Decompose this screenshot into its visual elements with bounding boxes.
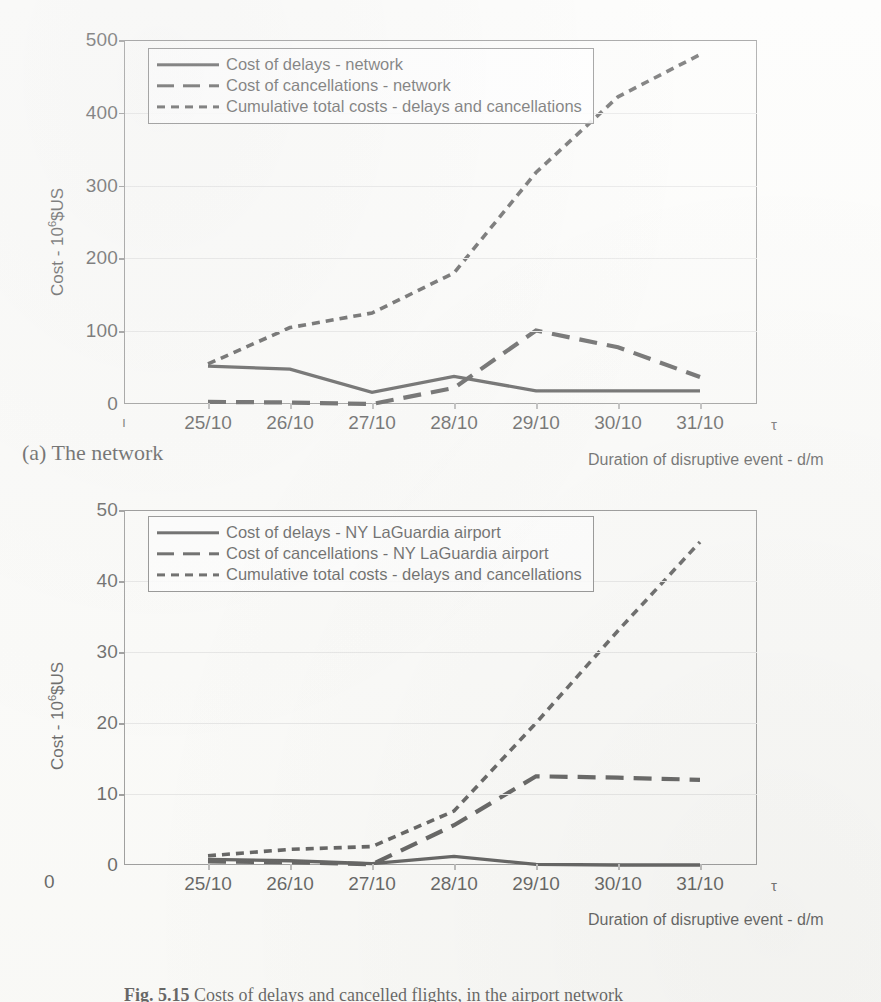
x-tick-mark [372,864,374,870]
y-tick-label: 500 [86,29,118,51]
x-tick-mark [618,403,620,409]
x-tick-mark [454,403,456,409]
y-tick-label: 100 [86,320,118,342]
x-tick-label: 30/10 [594,412,642,434]
x-tick-mark [536,403,538,409]
legend-label: Cumulative total costs - delays and canc… [226,98,582,115]
y-tick-label: 30 [96,641,118,663]
x-tick-label: 26/10 [266,873,314,895]
y-tick-mark [119,258,125,260]
y-tick-label: 20 [96,712,118,734]
y-tick-mark [119,723,125,725]
legend-line-swatch-icon [157,569,219,580]
gridline [124,331,757,332]
y-tick-label: 0 [107,393,118,415]
y-tick-mark [119,331,125,333]
y-axis-title-b: Cost - 106$US [46,662,68,770]
y-tick-mark [119,113,125,115]
legend-label: Cost of cancellations - NY LaGuardia air… [226,545,549,562]
x-tick-label: 31/10 [676,873,724,895]
tau-symbol: τ [771,877,777,894]
subcaption-a: (a) The network [22,440,163,466]
x-axis-caption-a: Duration of disruptive event - d/m [588,451,824,469]
legend-a: Cost of delays - networkCost of cancella… [148,48,594,124]
y-tick-label: 200 [86,247,118,269]
gridline [124,186,757,187]
x-tick-mark [208,864,210,870]
chart-panel-network: Cost - 106$US 0100200300400500 Cost of d… [0,0,881,470]
legend-item: Cost of delays - NY LaGuardia airport [157,522,582,543]
x-tick-mark [372,403,374,409]
y-tick-mark [119,794,125,796]
gridline [124,723,757,724]
x-tick-mark [208,403,210,409]
x-tick-label: 28/10 [430,873,478,895]
x-tick-label: 29/10 [512,873,560,895]
legend-line-swatch-icon [157,548,219,559]
legend-line-swatch-icon [157,80,219,91]
x-tick-label: 27/10 [348,412,396,434]
chart-panel-laguardia: Cost - 106$US 01020304050 Cost of delays… [0,470,881,960]
x-tick-label: 30/10 [594,873,642,895]
legend-item: Cumulative total costs - delays and canc… [157,564,582,585]
legend-b: Cost of delays - NY LaGuardia airportCos… [148,516,594,592]
legend-label: Cost of delays - network [226,56,403,73]
figure-5-15: Cost - 106$US 0100200300400500 Cost of d… [0,0,881,1002]
y-tick-label: 300 [86,175,118,197]
y-tick-label: 400 [86,102,118,124]
legend-item: Cost of cancellations - network [157,75,582,96]
legend-line-swatch-icon [157,59,219,70]
x-tick-mark [536,864,538,870]
x-tick-label: 27/10 [348,873,396,895]
gridline [124,258,757,259]
x-tick-label: 25/10 [184,412,232,434]
x-tick-mark [290,403,292,409]
legend-label: Cumulative total costs - delays and canc… [226,566,582,583]
x-axis-caption-b: Duration of disruptive event - d/m [588,911,824,929]
x-axis-labels-a: 25/1026/1027/1028/1029/1030/1031/10τı [124,410,757,436]
x-tick-mark [454,864,456,870]
y-tick-label: 50 [96,499,118,521]
y-tick-label: 10 [96,783,118,805]
x-tick-label: 31/10 [676,412,724,434]
y-tick-mark [119,40,125,42]
x-tick-mark [618,864,620,870]
legend-line-swatch-icon [157,527,219,538]
origin-tick-mark: ı [122,414,126,430]
y-tick-mark [119,581,125,583]
y-tick-mark [119,186,125,188]
legend-label: Cost of cancellations - network [226,77,451,94]
x-tick-mark [700,864,702,870]
x-tick-mark [290,864,292,870]
x-tick-label: 28/10 [430,412,478,434]
x-tick-label: 26/10 [266,412,314,434]
figure-caption-text: Costs of delays and cancelled flights, i… [194,985,623,1002]
legend-item: Cumulative total costs - delays and canc… [157,96,582,117]
y-tick-mark [119,510,125,512]
origin-zero-label-b: 0 [44,871,55,893]
figure-caption: Fig. 5.15 Costs of delays and cancelled … [124,985,824,1002]
legend-item: Cost of delays - network [157,54,582,75]
tau-symbol: τ [771,416,777,433]
legend-line-swatch-icon [157,101,219,112]
figure-caption-label: Fig. 5.15 [124,985,190,1002]
x-axis-labels-b: 25/1026/1027/1028/1029/1030/1031/10τ [124,871,757,897]
gridline [124,652,757,653]
y-tick-mark [119,652,125,654]
x-tick-mark [700,403,702,409]
y-tick-label: 40 [96,570,118,592]
series-line [208,366,700,392]
y-tick-label: 0 [107,854,118,876]
x-tick-label: 29/10 [512,412,560,434]
y-axis-title-a: Cost - 106$US [46,188,68,296]
legend-label: Cost of delays - NY LaGuardia airport [226,524,501,541]
x-tick-label: 25/10 [184,873,232,895]
gridline [124,794,757,795]
legend-item: Cost of cancellations - NY LaGuardia air… [157,543,582,564]
